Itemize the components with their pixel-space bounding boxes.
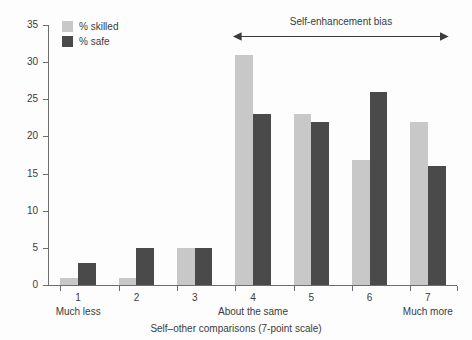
bars-layer — [49, 25, 457, 285]
bar-skilled-4 — [235, 55, 253, 285]
x-axis-tick — [235, 286, 236, 291]
y-axis-tick-label: 25 — [0, 94, 38, 104]
bar-skilled-6 — [352, 160, 370, 285]
x-axis-sublabel-7: Much more — [368, 307, 472, 317]
bar-skilled-2 — [119, 278, 137, 285]
bar-skilled-3 — [177, 248, 195, 285]
y-axis-tick — [43, 285, 49, 286]
x-axis-tick-label-1: 1 — [58, 293, 98, 303]
x-axis-sublabel-1: Much less — [18, 307, 138, 317]
bar-skilled-1 — [60, 278, 78, 285]
bar-skilled-5 — [294, 114, 312, 285]
y-axis-tick-label: 0 — [0, 280, 38, 290]
x-axis-title: Self–other comparisons (7-point scale) — [0, 324, 472, 334]
x-axis-line — [48, 285, 457, 286]
y-axis-tick-label: 30 — [0, 57, 38, 67]
bar-safe-6 — [370, 92, 388, 285]
x-axis-tick-label-7: 7 — [408, 293, 448, 303]
y-axis-tick-label: 10 — [0, 206, 38, 216]
x-axis-tick-label-4: 4 — [233, 293, 273, 303]
bar-skilled-7 — [410, 122, 428, 285]
x-axis-tick — [60, 286, 61, 291]
x-axis-tick-label-3: 3 — [175, 293, 215, 303]
bar-safe-2 — [136, 248, 154, 285]
y-axis-tick-label: 5 — [0, 243, 38, 253]
bar-safe-7 — [428, 166, 446, 285]
bar-safe-5 — [311, 122, 329, 285]
bar-safe-1 — [78, 263, 96, 285]
bar-chart-figure: % skilled % safe Self-enhancement bias 0… — [0, 0, 472, 340]
x-axis-tick — [119, 286, 120, 291]
x-axis-tick — [352, 286, 353, 291]
x-axis-tick — [457, 286, 458, 291]
x-axis-tick-label-6: 6 — [350, 293, 390, 303]
y-axis-tick-label: 15 — [0, 169, 38, 179]
bar-safe-3 — [195, 248, 213, 285]
x-axis-tick — [177, 286, 178, 291]
bar-safe-4 — [253, 114, 271, 285]
y-axis-tick-label: 20 — [0, 131, 38, 141]
y-axis-tick-label: 35 — [0, 20, 38, 30]
x-axis-tick-label-5: 5 — [291, 293, 331, 303]
x-axis-sublabel-4: About the same — [193, 307, 313, 317]
x-axis-tick-label-2: 2 — [116, 293, 156, 303]
x-axis-tick — [410, 286, 411, 291]
x-axis-tick — [294, 286, 295, 291]
